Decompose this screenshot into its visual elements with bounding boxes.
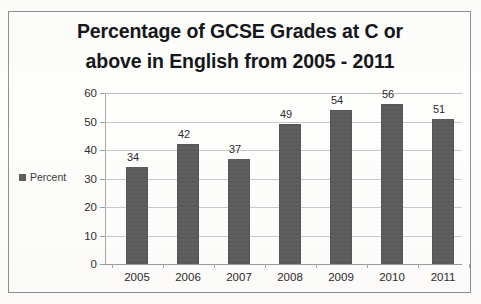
- y-axis-label-50: 50: [84, 116, 97, 128]
- y-axis-label-60: 60: [84, 87, 97, 99]
- chart-screenshot: Percentage of GCSE Grades at C or above …: [0, 0, 481, 304]
- x-axis-label-2006: 2006: [166, 271, 210, 283]
- chart-title-line-2: above in English from 2005 - 2011: [40, 46, 440, 76]
- x-axis-tick-3: [265, 264, 266, 268]
- chart-legend[interactable]: Percent: [19, 172, 66, 183]
- x-axis-tick-4: [316, 264, 317, 268]
- bar-2008[interactable]: [279, 124, 301, 264]
- y-axis-label-20: 20: [84, 201, 97, 213]
- x-axis-label-2010: 2010: [370, 271, 414, 283]
- bar-2006[interactable]: [177, 144, 199, 264]
- x-axis-label-2011: 2011: [421, 271, 465, 283]
- bar-2009[interactable]: [330, 110, 352, 264]
- x-axis-tick-1: [163, 264, 164, 268]
- x-axis-tick-2: [214, 264, 215, 268]
- data-label-2011: 51: [424, 103, 454, 115]
- x-axis-label-2009: 2009: [319, 271, 363, 283]
- y-axis-label-40: 40: [84, 144, 97, 156]
- data-label-2006: 42: [169, 128, 199, 140]
- chart-title: Percentage of GCSE Grades at C or above …: [40, 16, 440, 76]
- x-axis-tick-end: [469, 264, 470, 268]
- data-label-2010: 56: [373, 88, 403, 100]
- gridline-0: [105, 264, 462, 265]
- x-axis-tick-5: [367, 264, 368, 268]
- plot-area: 0102030405060 34423749545651 20052006200…: [105, 93, 462, 264]
- chart-title-line-1: Percentage of GCSE Grades at C or: [40, 16, 440, 46]
- x-axis-label-2008: 2008: [268, 271, 312, 283]
- x-axis-tick-6: [418, 264, 419, 268]
- data-label-2007: 37: [220, 143, 250, 155]
- x-axis-label-2005: 2005: [115, 271, 159, 283]
- y-axis-label-30: 30: [84, 173, 97, 185]
- y-axis-label-0: 0: [91, 258, 97, 270]
- gridline-50: [105, 122, 462, 123]
- data-label-2005: 34: [118, 151, 148, 163]
- legend-swatch-percent: [19, 174, 26, 181]
- data-label-2008: 49: [271, 108, 301, 120]
- bar-2007[interactable]: [228, 159, 250, 264]
- bar-2011[interactable]: [432, 119, 454, 264]
- x-axis-tick-0: [112, 264, 113, 268]
- gridline-60: [105, 93, 462, 94]
- x-axis-label-2007: 2007: [217, 271, 261, 283]
- bar-2005[interactable]: [126, 167, 148, 264]
- bar-2010[interactable]: [381, 104, 403, 264]
- data-label-2009: 54: [322, 94, 352, 106]
- legend-label-percent: Percent: [30, 172, 66, 183]
- y-axis-label-10: 10: [84, 230, 97, 242]
